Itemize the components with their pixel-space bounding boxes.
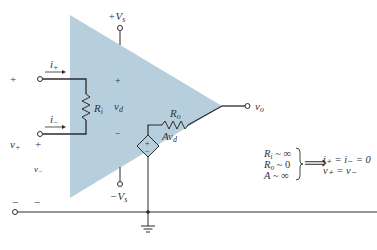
result-voltages: v₊ = v₋ <box>323 165 357 176</box>
i-plus-arrowhead-icon <box>62 70 66 74</box>
vd-plus-sign: + <box>115 75 121 86</box>
inverting-input-terminal[interactable] <box>38 132 43 137</box>
i-plus-label: i+ <box>50 58 58 72</box>
v-minus-label: v− <box>34 164 43 176</box>
v-plus-label: v+ <box>10 138 20 152</box>
i-minus-arrowhead-icon <box>62 125 66 129</box>
op-amp-triangle <box>70 15 222 198</box>
vd-minus-sign: − <box>115 128 121 139</box>
i-minus-label: i− <box>50 113 58 127</box>
result-currents: i₊ = i₋ = 0 <box>323 154 372 165</box>
outer-plus-sign: + <box>10 73 16 85</box>
ideal-conditions: Ri ~ ∞ Ro ~ 0 A ~ ∞ ⟹ i₊ = i₋ = 0 v₊ = v… <box>263 148 372 181</box>
brace-icon <box>296 148 303 180</box>
noninverting-input-terminal[interactable] <box>38 77 43 82</box>
output-terminal[interactable] <box>245 104 250 109</box>
condition-a: A ~ ∞ <box>263 170 289 181</box>
common-terminal[interactable] <box>13 210 18 215</box>
op-amp-diagram: +Vs −Vs + i+ i− v+ + v− − − Ri + vd − Ro… <box>0 0 377 250</box>
ground-icon <box>141 226 155 232</box>
v-plus-sign: + <box>35 138 41 150</box>
positive-supply-terminal[interactable] <box>118 26 123 31</box>
vo-label: vo <box>255 100 264 114</box>
source-minus-sign: − <box>145 147 150 156</box>
negative-supply-terminal[interactable] <box>118 182 123 187</box>
negative-supply-label: −Vs <box>110 190 127 204</box>
minus-sign-left-2: − <box>34 196 40 208</box>
positive-supply-label: +Vs <box>108 10 125 24</box>
minus-sign-left: − <box>12 196 18 208</box>
